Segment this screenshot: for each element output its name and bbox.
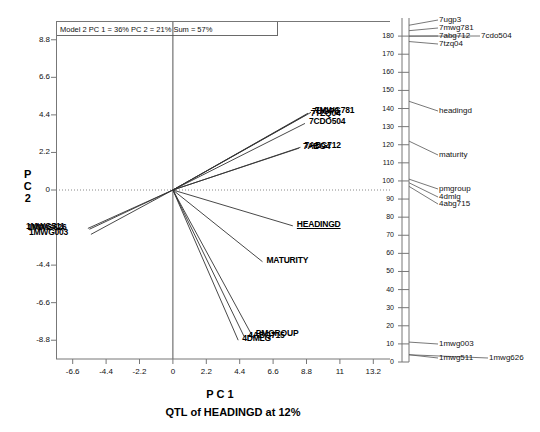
right-axis-tick-label: 40 — [378, 286, 394, 293]
right-axis-tick-label: 160 — [378, 68, 394, 75]
right-axis-tick-label: 170 — [378, 50, 394, 57]
right-axis-tick-label: 120 — [378, 141, 394, 148]
right-axis-marker-label: headingd — [439, 106, 472, 115]
right-axis-marker-label: 4abg715 — [439, 199, 470, 208]
right-axis-tick-label: 90 — [378, 195, 394, 202]
right-axis-tick-label: 0 — [378, 358, 394, 365]
right-axis-tick-label: 180 — [378, 32, 394, 39]
right-axis-marker-label: 7cdo504 — [481, 31, 512, 40]
right-axis-tick-label: 60 — [378, 249, 394, 256]
right-axis-tick-label: 10 — [378, 340, 394, 347]
right-axis-tick-label: 100 — [378, 177, 394, 184]
right-axis-marker-label: 1mwg511 — [439, 353, 473, 362]
right-axis-tick-label: 70 — [378, 231, 394, 238]
right-axis-tick-label: 110 — [378, 159, 394, 166]
right-axis-tick-label: 80 — [378, 213, 394, 220]
right-axis-tick-label: 20 — [378, 322, 394, 329]
right-axis-tick-label: 50 — [378, 267, 394, 274]
right-axis-tick-label: 140 — [378, 105, 394, 112]
chart-canvas: Model 2 PC 1 = 36% PC 2 = 21% Sum = 57% … — [0, 0, 540, 432]
right-axis-tick-label: 130 — [378, 123, 394, 130]
right-axis-marker-label: 1mwg626 — [489, 353, 524, 362]
right-label-layer: 1801701601501401301201101009080706050403… — [0, 0, 540, 432]
right-axis-tick-label: 30 — [378, 304, 394, 311]
right-axis-tick-label: 150 — [378, 86, 394, 93]
right-axis-marker-label: 1mwg003 — [439, 339, 474, 348]
right-axis-marker-label: maturity — [439, 150, 467, 159]
right-axis-marker-label: 7tzq04 — [439, 39, 463, 48]
